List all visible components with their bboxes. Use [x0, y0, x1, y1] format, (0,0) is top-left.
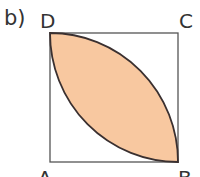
square-diagram [0, 0, 200, 177]
